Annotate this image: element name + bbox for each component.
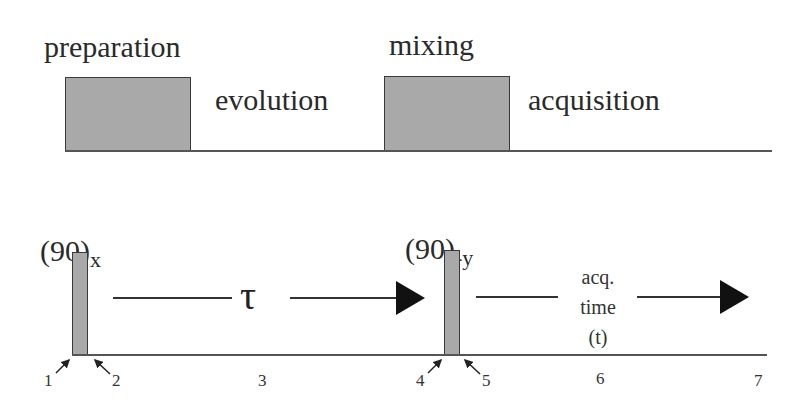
- time-point-6: 6: [596, 370, 605, 387]
- time-point-3: 3: [258, 372, 267, 389]
- time-point-1: 1: [44, 372, 53, 389]
- time-point-4: 4: [416, 372, 425, 389]
- time-point-2: 2: [112, 372, 121, 389]
- time-point-5: 5: [482, 372, 491, 389]
- time-point-7: 7: [754, 372, 763, 389]
- time-point-pointers-icon: [0, 0, 799, 412]
